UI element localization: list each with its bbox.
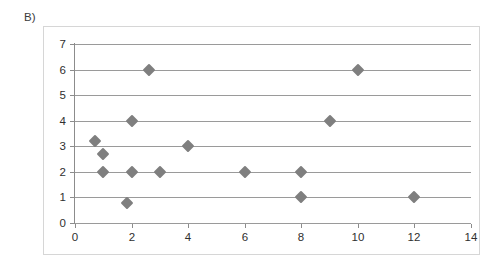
y-tick-label-7: 7 (42, 39, 66, 50)
y-tick-5 (70, 95, 74, 96)
gridline-y-6 (75, 70, 471, 71)
y-tick-label-5: 5 (42, 90, 66, 101)
x-tick-label-10: 10 (343, 231, 373, 244)
x-tick-12 (414, 224, 415, 228)
x-tick-label-12: 12 (399, 231, 429, 244)
data-point (97, 148, 110, 161)
data-point (182, 140, 195, 153)
panel-label: B) (24, 10, 36, 24)
y-tick-2 (70, 172, 74, 173)
x-tick-6 (245, 224, 246, 228)
data-point (295, 191, 308, 204)
y-tick-label-2: 2 (42, 167, 66, 178)
x-tick-label-2: 2 (117, 231, 147, 244)
y-tick-3 (70, 146, 74, 147)
x-tick-label-8: 8 (286, 231, 316, 244)
gridline-y-3 (75, 146, 471, 147)
gridline-y-0 (75, 223, 471, 224)
y-tick-7 (70, 44, 74, 45)
y-tick-1 (70, 197, 74, 198)
y-tick-6 (70, 70, 74, 71)
data-point (238, 165, 251, 178)
data-point (323, 114, 336, 127)
data-point (351, 63, 364, 76)
x-tick-10 (358, 224, 359, 228)
x-tick-label-6: 6 (230, 231, 260, 244)
x-tick-4 (188, 224, 189, 228)
x-tick-2 (132, 224, 133, 228)
y-tick-label-1: 1 (42, 192, 66, 203)
y-tick-label-4: 4 (42, 116, 66, 127)
y-tick-label-6: 6 (42, 65, 66, 76)
data-point (125, 114, 138, 127)
x-tick-8 (301, 224, 302, 228)
data-point (142, 63, 155, 76)
x-tick-label-0: 0 (60, 231, 90, 244)
data-point (153, 165, 166, 178)
data-point (295, 165, 308, 178)
data-point (408, 191, 421, 204)
x-tick-label-14: 14 (456, 231, 486, 244)
y-tick-4 (70, 121, 74, 122)
data-point (97, 165, 110, 178)
x-tick-14 (471, 224, 472, 228)
y-tick-label-0: 0 (42, 218, 66, 229)
x-tick-0 (75, 224, 76, 228)
gridline-y-5 (75, 95, 471, 96)
plot-area (75, 44, 471, 223)
data-point (121, 196, 134, 209)
data-point (125, 165, 138, 178)
scatter-plot-figure: B) 01234567 02468101214 (0, 0, 503, 266)
x-tick-label-4: 4 (173, 231, 203, 244)
y-tick-label-3: 3 (42, 141, 66, 152)
gridline-y-7 (75, 44, 471, 45)
y-tick-0 (70, 223, 74, 224)
